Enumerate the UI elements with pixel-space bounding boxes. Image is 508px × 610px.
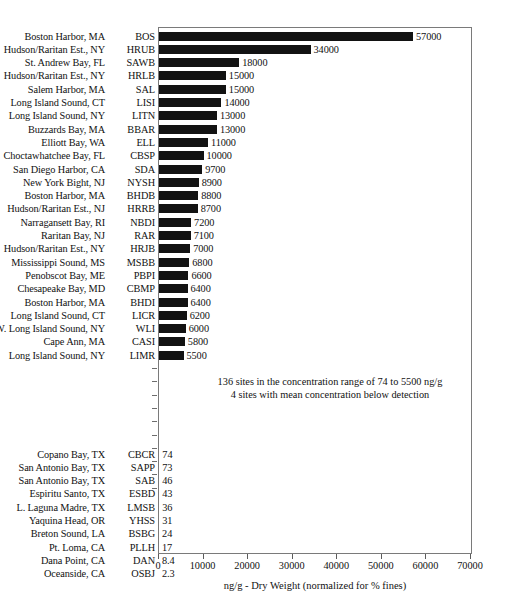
bar-value-label: 34000 bbox=[314, 43, 339, 56]
row-site-code: WLI bbox=[108, 322, 155, 335]
row-site-label: San Antonio Bay, TX bbox=[19, 461, 105, 474]
bar-value-label: 8.4 bbox=[162, 554, 175, 567]
bar-value-label: 11000 bbox=[211, 136, 236, 149]
row-site-code: DAN bbox=[108, 554, 155, 567]
row-site-code: SDA bbox=[108, 163, 155, 176]
row-site-code: LMSB bbox=[108, 501, 155, 514]
row-site-label: Long Island Sound, CT bbox=[10, 309, 105, 322]
table-row: San Diego Harbor, CASDA9700 bbox=[0, 163, 508, 176]
bar-value-label: 6800 bbox=[192, 256, 212, 269]
annotation-line-2: 4 sites with mean concentration below de… bbox=[196, 389, 464, 402]
axis-break-tick bbox=[152, 421, 157, 422]
row-site-code: BHDB bbox=[108, 189, 155, 202]
bar bbox=[159, 191, 198, 200]
table-row: Mississippi Sound, MSMSBB6800 bbox=[0, 256, 508, 269]
axis-break-tick bbox=[152, 461, 157, 462]
bar bbox=[159, 111, 217, 120]
bar-value-label: 15000 bbox=[229, 83, 254, 96]
row-site-code: LITN bbox=[108, 109, 155, 122]
axis-break-tick bbox=[152, 368, 157, 369]
row-site-label: L. Laguna Madre, TX bbox=[16, 501, 105, 514]
row-site-code: NBDI bbox=[108, 216, 155, 229]
x-axis-tick-label: 0 bbox=[155, 560, 160, 572]
bar-value-label: 31 bbox=[162, 514, 172, 527]
row-site-label: Salem Harbor, MA bbox=[28, 83, 105, 96]
bar-value-label: 5500 bbox=[187, 349, 207, 362]
row-site-code: BHDI bbox=[108, 296, 155, 309]
row-site-code: SAPP bbox=[108, 461, 155, 474]
table-row: Breton Sound, LABSBG24 bbox=[0, 527, 508, 540]
row-site-code: LISI bbox=[108, 96, 155, 109]
annotation-line-1: 136 sites in the concentration range of … bbox=[196, 376, 464, 389]
bar-value-label: 6400 bbox=[191, 282, 211, 295]
axis-break-tick bbox=[152, 448, 157, 449]
row-site-label: St. Andrew Bay, FL bbox=[25, 56, 105, 69]
bar bbox=[159, 71, 226, 80]
bar bbox=[159, 45, 311, 54]
row-site-code: PBPI bbox=[108, 269, 155, 282]
table-row: Pt. Loma, CAPLLH17 bbox=[0, 541, 508, 554]
table-row: Buzzards Bay, MABBAR13000 bbox=[0, 123, 508, 136]
row-site-label: Oceanside, CA bbox=[44, 567, 105, 580]
row-site-code: SAWB bbox=[108, 56, 155, 69]
table-row: San Antonio Bay, TXSAPP73 bbox=[0, 461, 508, 474]
table-row: New York Bight, NJNYSH8900 bbox=[0, 176, 508, 189]
row-site-code: SAL bbox=[108, 83, 155, 96]
row-site-code: CASI bbox=[108, 335, 155, 348]
bar-value-label: 7000 bbox=[193, 242, 213, 255]
bar bbox=[159, 271, 188, 280]
row-site-code: ELL bbox=[108, 136, 155, 149]
axis-break-tick bbox=[152, 435, 157, 436]
row-site-code: BBAR bbox=[108, 123, 155, 136]
table-row: Hudson/Raritan Est., NYHRLB15000 bbox=[0, 69, 508, 82]
row-site-label: Mississippi Sound, MS bbox=[11, 256, 105, 269]
bar-value-label: 6600 bbox=[191, 269, 211, 282]
row-site-label: Buzzards Bay, MA bbox=[28, 123, 105, 136]
bar bbox=[159, 85, 226, 94]
table-row: Salem Harbor, MASAL15000 bbox=[0, 83, 508, 96]
bar-value-label: 43 bbox=[162, 487, 172, 500]
bar-value-label: 17 bbox=[162, 541, 172, 554]
row-site-label: W. Long Island Sound, NY bbox=[0, 322, 105, 335]
bar-value-label: 6400 bbox=[191, 296, 211, 309]
chart-annotation: 136 sites in the concentration range of … bbox=[196, 376, 464, 401]
bar-value-label: 74 bbox=[162, 448, 172, 461]
row-site-code: CBSP bbox=[108, 149, 155, 162]
x-axis-tick-label: 10000 bbox=[190, 560, 216, 572]
x-axis-tick bbox=[425, 554, 426, 559]
bar bbox=[159, 32, 413, 41]
table-row: Elliott Bay, WAELL11000 bbox=[0, 136, 508, 149]
bar bbox=[159, 298, 188, 307]
row-site-code: HRLB bbox=[108, 69, 155, 82]
row-site-label: Yaquina Head, OR bbox=[29, 514, 105, 527]
row-site-code: NYSH bbox=[108, 176, 155, 189]
row-site-label: New York Bight, NJ bbox=[23, 176, 105, 189]
bar bbox=[159, 337, 185, 346]
row-site-code: BOS bbox=[108, 30, 155, 43]
row-site-label: Raritan Bay, NJ bbox=[41, 229, 105, 242]
x-axis-tick bbox=[336, 554, 337, 559]
table-row: Hudson/Raritan Est., NYHRJB7000 bbox=[0, 242, 508, 255]
row-site-code: ESBD bbox=[108, 487, 155, 500]
x-axis-tick-label: 40000 bbox=[323, 560, 349, 572]
bar-value-label: 6200 bbox=[190, 309, 210, 322]
row-site-label: Choctawhatchee Bay, FL bbox=[4, 149, 106, 162]
row-site-code: LIMR bbox=[108, 349, 155, 362]
row-site-code: HRUB bbox=[108, 43, 155, 56]
row-site-code: OSBJ bbox=[108, 567, 155, 580]
bar-value-label: 15000 bbox=[229, 69, 254, 82]
row-site-code: CBMP bbox=[108, 282, 155, 295]
bar-value-label: 8700 bbox=[201, 202, 221, 215]
x-axis-tick bbox=[292, 554, 293, 559]
row-site-label: Hudson/Raritan Est., NJ bbox=[7, 202, 105, 215]
row-site-label: Hudson/Raritan Est., NY bbox=[4, 69, 105, 82]
row-site-label: Breton Sound, LA bbox=[31, 527, 105, 540]
bar-value-label: 5800 bbox=[188, 335, 208, 348]
bar bbox=[159, 218, 191, 227]
row-site-code: MSBB bbox=[108, 256, 155, 269]
row-site-label: Pt. Loma, CA bbox=[49, 541, 105, 554]
bar bbox=[159, 178, 199, 187]
row-site-label: San Antonio Bay, TX bbox=[19, 474, 105, 487]
x-axis-tick-label: 70000 bbox=[457, 560, 483, 572]
x-axis-tick-label: 30000 bbox=[279, 560, 305, 572]
